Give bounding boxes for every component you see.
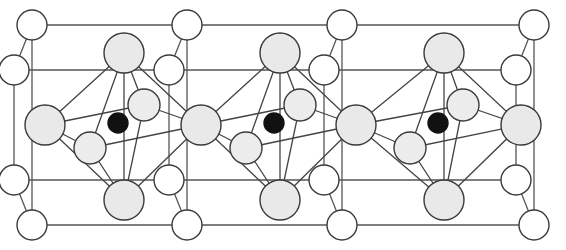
hub-gray-mid2 xyxy=(336,105,376,145)
center-black-cell3 xyxy=(428,113,448,133)
center-black-cell2 xyxy=(264,113,284,133)
inner-gray-lower-cell1 xyxy=(74,132,106,164)
base-gray-cell1 xyxy=(104,180,144,220)
corner-white-lower-left xyxy=(0,165,29,195)
corner-white-lower-mid1 xyxy=(154,165,184,195)
corner-white-lower-mid2 xyxy=(309,165,339,195)
hub-gray-left-edge xyxy=(25,105,65,145)
corner-white-bottom-mid2 xyxy=(327,210,357,240)
corner-white-top-mid2 xyxy=(327,10,357,40)
crystal-lattice-canvas xyxy=(0,0,566,250)
base-gray-cell3 xyxy=(424,180,464,220)
corner-white-upper-mid1 xyxy=(154,55,184,85)
hub-gray-mid1 xyxy=(181,105,221,145)
corner-white-top-left xyxy=(17,10,47,40)
inner-gray-lower-cell2 xyxy=(230,132,262,164)
apex-gray-cell3 xyxy=(424,33,464,73)
corner-white-upper-right xyxy=(501,55,531,85)
corner-white-bottom-mid1 xyxy=(172,210,202,240)
center-black-cell1 xyxy=(108,113,128,133)
inner-gray-lower-cell3 xyxy=(394,132,426,164)
corner-white-top-mid1 xyxy=(172,10,202,40)
corner-white-top-right xyxy=(519,10,549,40)
apex-gray-cell1 xyxy=(104,33,144,73)
corner-white-lower-right xyxy=(501,165,531,195)
inner-gray-upper-cell3 xyxy=(447,89,479,121)
base-gray-cell2 xyxy=(260,180,300,220)
crystal-structure-figure xyxy=(0,0,566,250)
inner-gray-upper-cell1 xyxy=(128,89,160,121)
apex-gray-cell2 xyxy=(260,33,300,73)
corner-white-bottom-right xyxy=(519,210,549,240)
atom-spheres xyxy=(0,10,549,240)
corner-white-upper-left xyxy=(0,55,29,85)
hub-gray-right-edge xyxy=(501,105,541,145)
inner-gray-upper-cell2 xyxy=(284,89,316,121)
corner-white-bottom-left xyxy=(17,210,47,240)
corner-white-upper-mid2 xyxy=(309,55,339,85)
